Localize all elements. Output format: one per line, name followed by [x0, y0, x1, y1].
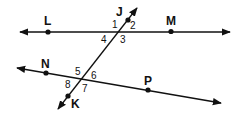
angle-2: 2 [130, 20, 136, 31]
label-n: N [41, 57, 50, 71]
angle-1: 1 [112, 19, 118, 30]
angle-7: 7 [82, 83, 88, 94]
geometry-diagram: L M J N P K 1 2 3 4 5 6 7 8 [0, 0, 241, 119]
point-p [145, 87, 150, 92]
line-jk-transversal [58, 8, 137, 109]
point-m [168, 29, 173, 34]
label-l: L [44, 14, 51, 28]
label-k: K [71, 97, 80, 111]
angle-3: 3 [120, 34, 126, 45]
label-m: M [166, 14, 176, 28]
point-k [65, 93, 70, 98]
angle-6: 6 [91, 70, 97, 81]
label-p: P [144, 74, 152, 88]
angle-5: 5 [75, 66, 81, 77]
point-l [45, 29, 50, 34]
angle-4: 4 [101, 34, 107, 45]
point-n [43, 70, 48, 75]
label-j: J [116, 5, 123, 19]
angle-8: 8 [65, 79, 71, 90]
